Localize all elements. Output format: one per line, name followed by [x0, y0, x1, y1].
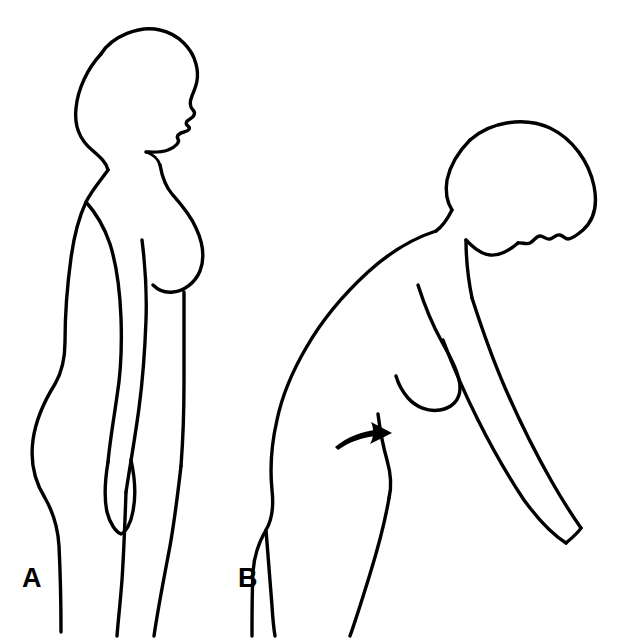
- figure-a-jaw-underline: [146, 152, 160, 165]
- figure-a-back-contour: [32, 170, 108, 632]
- figure-a-abdomen-front-line: [181, 292, 184, 466]
- figure-b-abdomen-line: [378, 414, 391, 498]
- posture-illustration-svg: [0, 0, 617, 640]
- figure-b-rear-leg-inner: [266, 530, 275, 636]
- figure-b-front-leg: [350, 498, 389, 636]
- figure-b-head-profile: [470, 122, 595, 244]
- panel-label-a: A: [22, 565, 42, 592]
- figure-b-hand: [566, 528, 581, 543]
- hip-shift-arrow-shaft: [335, 430, 377, 450]
- figure-a-front-leg: [154, 466, 181, 636]
- figure-b-neck-back-line: [436, 210, 452, 231]
- figure-a-upright: [32, 29, 203, 636]
- figure-a-arm-outer-line: [86, 202, 121, 462]
- figure-a-head-profile: [101, 29, 197, 152]
- figure-b-neck-front-line: [466, 240, 472, 298]
- figure-b-arm-outer-line: [472, 298, 581, 528]
- figure-b-jaw-underline: [466, 240, 518, 255]
- figure-b-breast-contour: [396, 285, 460, 410]
- figure-container: A B: [0, 0, 617, 640]
- figure-a-front-torso-contour: [153, 165, 203, 292]
- panel-label-b: B: [238, 565, 258, 592]
- figure-b-occiput-line: [446, 140, 470, 210]
- figure-a-rear-leg-inner: [117, 492, 126, 636]
- figure-a-occiput-line: [76, 54, 108, 170]
- figure-b-arm-inner-line: [443, 340, 566, 543]
- figure-b-back-contour: [252, 231, 436, 636]
- figure-b-forward-bend: [252, 122, 595, 636]
- figure-a-trunk-side-line: [126, 240, 146, 492]
